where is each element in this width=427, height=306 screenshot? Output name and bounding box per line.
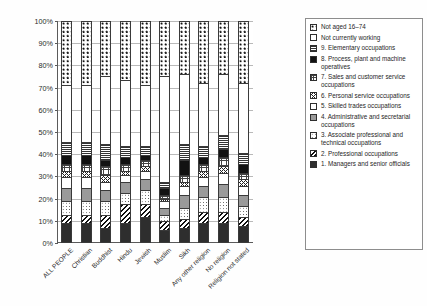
bar-segment-notaged[interactable] [82,22,91,86]
bar-segment-elementary[interactable] [101,145,110,160]
bar-segment-managers[interactable] [199,224,208,242]
bar-segment-process[interactable] [199,158,208,165]
bar-segment-sales[interactable] [121,165,130,172]
bar-segment-notworking[interactable] [160,77,169,183]
stacked-bar[interactable] [140,21,151,243]
bar-segment-process[interactable] [160,189,169,196]
bar-segment-personal[interactable] [101,176,110,183]
bar-segment-admin[interactable] [62,189,71,202]
bar-segment-skilled[interactable] [101,183,110,192]
bar-segment-admin[interactable] [160,209,169,216]
bar-segment-managers[interactable] [82,224,91,242]
bar-segment-notaged[interactable] [199,22,208,84]
bar-segment-notworking[interactable] [101,77,110,145]
bar-segment-notaged[interactable] [141,22,150,86]
bar-segment-process[interactable] [101,161,110,168]
x-axis-label-hindu[interactable]: Hindu [116,247,133,264]
bar-segment-managers[interactable] [141,218,150,242]
stacked-bar[interactable] [159,21,170,243]
bar-segment-skilled[interactable] [121,176,130,183]
bar-segment-notworking[interactable] [219,75,228,137]
bar-segment-managers[interactable] [121,224,130,242]
bar-segment-notworking[interactable] [82,86,91,143]
bar-segment-skilled[interactable] [199,178,208,187]
bar-segment-process[interactable] [180,161,189,176]
bar-segment-associate[interactable] [180,209,189,220]
bar-segment-professional[interactable] [141,205,150,218]
bar-segment-sales[interactable] [180,176,189,183]
bar-segment-admin[interactable] [199,187,208,198]
bar-segment-elementary[interactable] [121,147,130,158]
bar-segment-admin[interactable] [141,180,150,191]
bar-segment-process[interactable] [239,165,248,174]
bar-segment-professional[interactable] [219,213,228,224]
x-axis-label-buddhist[interactable]: Buddhist [91,247,114,270]
bar-segment-personal[interactable] [219,167,228,174]
stacked-bar[interactable] [81,21,92,243]
legend-item-process[interactable]: 8. Process, plant and machine operatives [310,55,419,70]
bar-segment-notworking[interactable] [239,84,248,154]
legend-item-managers[interactable]: 1. Managers and senior officials [310,160,419,168]
bar-segment-skilled[interactable] [82,178,91,189]
bar-segment-notaged[interactable] [101,22,110,77]
bar-segment-notaged[interactable] [180,22,189,75]
bar-segment-managers[interactable] [160,231,169,242]
stacked-bar[interactable] [120,21,131,243]
bar-segment-associate[interactable] [101,202,110,215]
bar-segment-process[interactable] [82,156,91,165]
bar-segment-associate[interactable] [239,207,248,218]
stacked-bar[interactable] [179,21,190,243]
bar-segment-notworking[interactable] [199,84,208,148]
bar-segment-admin[interactable] [101,191,110,202]
bar-segment-sales[interactable] [199,165,208,172]
bar-segment-personal[interactable] [199,172,208,179]
bar-segment-managers[interactable] [62,224,71,242]
bar-segment-managers[interactable] [239,227,248,242]
legend-item-associate[interactable]: 3. Associate professional and technical … [310,131,419,146]
bar-segment-skilled[interactable] [160,202,169,209]
bar-segment-elementary[interactable] [180,145,189,160]
bar-segment-sales[interactable] [82,165,91,172]
bar-segment-managers[interactable] [180,229,189,242]
bar-segment-personal[interactable] [239,180,248,187]
legend-item-notaged[interactable]: Not aged 16–74 [310,23,419,31]
bar-segment-elementary[interactable] [219,136,228,149]
legend-item-skilled[interactable]: 5. Skilled trades occupations [310,102,419,110]
legend-item-elementary[interactable]: 9. Elementary occupations [310,44,419,52]
bar-segment-notworking[interactable] [121,81,130,147]
stacked-bar[interactable] [238,21,249,243]
bar-segment-admin[interactable] [82,189,91,202]
bar-segment-admin[interactable] [180,196,189,209]
bar-segment-elementary[interactable] [160,183,169,190]
bar-segment-notworking[interactable] [62,86,71,143]
bar-segment-process[interactable] [219,150,228,159]
bar-segment-associate[interactable] [121,194,130,205]
bar-segment-sales[interactable] [219,158,228,167]
x-axis-label-jewish[interactable]: Jewish [134,247,153,266]
bar-segment-elementary[interactable] [62,143,71,156]
bar-segment-professional[interactable] [180,220,189,229]
bar-segment-notaged[interactable] [160,22,169,77]
bar-segment-notaged[interactable] [239,22,248,84]
bar-segment-associate[interactable] [199,198,208,213]
bar-segment-notworking[interactable] [180,75,189,145]
bar-segment-elementary[interactable] [199,147,208,158]
bar-segment-professional[interactable] [239,218,248,227]
bar-segment-sales[interactable] [62,165,71,172]
bar-segment-associate[interactable] [219,198,228,213]
legend-item-personal[interactable]: 6. Personal service occupations [310,92,419,100]
bar-segment-skilled[interactable] [141,172,150,181]
bar-segment-skilled[interactable] [219,174,228,185]
bar-segment-personal[interactable] [82,172,91,179]
bar-segment-professional[interactable] [62,216,71,225]
x-axis-label-muslim[interactable]: Muslim [153,247,172,266]
bar-segment-managers[interactable] [219,224,228,242]
stacked-bar[interactable] [100,21,111,243]
bar-segment-notaged[interactable] [219,22,228,75]
x-axis-label-sikh[interactable]: Sikh [178,247,192,261]
bar-segment-admin[interactable] [219,185,228,198]
bar-segment-skilled[interactable] [62,178,71,189]
bar-segment-associate[interactable] [82,202,91,215]
legend-item-professional[interactable]: 2. Professional occupations [310,150,419,158]
bar-segment-notaged[interactable] [62,22,71,86]
